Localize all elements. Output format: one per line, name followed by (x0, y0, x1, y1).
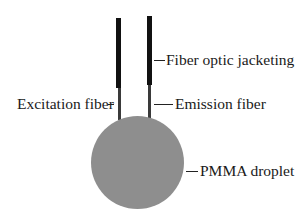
excitation-fiber (118, 88, 121, 120)
pmma-droplet (91, 116, 184, 209)
emission-fiber-jacketing (147, 16, 152, 85)
excitation-label: Excitation fiber (17, 95, 114, 113)
emission-label: Emission fiber (175, 95, 266, 113)
droplet-label: PMMA droplet (200, 162, 294, 180)
jacketing-label: Fiber optic jacketing (166, 51, 294, 69)
emission-leader-line (154, 104, 173, 105)
droplet-leader-line (186, 171, 198, 172)
excitation-leader-line (108, 104, 114, 105)
jacketing-leader-line (154, 60, 165, 61)
excitation-fiber-jacketing (116, 18, 121, 88)
emission-fiber (148, 85, 151, 119)
